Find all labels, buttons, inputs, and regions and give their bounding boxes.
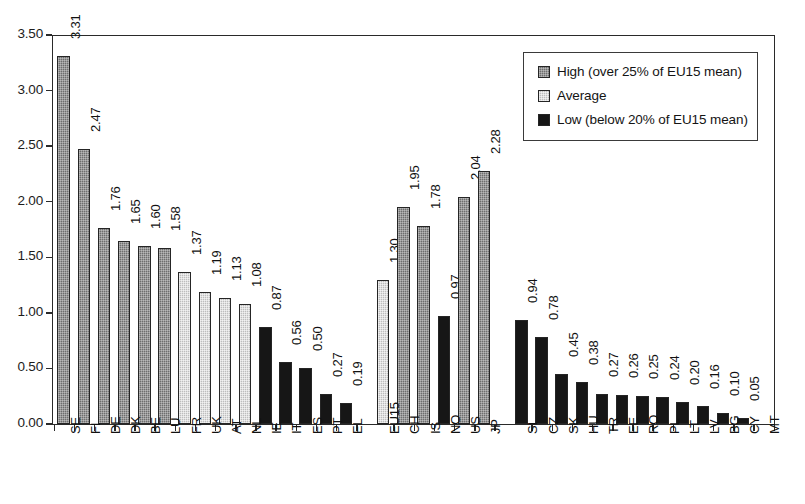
x-label-slot: PL — [656, 434, 669, 504]
x-label-slot: CY — [737, 434, 750, 504]
bar[interactable] — [279, 362, 292, 424]
x-label-slot: IT — [279, 434, 292, 504]
bar[interactable] — [78, 149, 91, 424]
x-label-slot: SI — [515, 434, 528, 504]
y-tick-label: 2.00 — [18, 193, 43, 208]
bar-slot: 1.65 — [118, 35, 131, 424]
x-label-slot: HU — [576, 434, 589, 504]
x-label-slot: DE — [98, 434, 111, 504]
bar[interactable] — [478, 171, 491, 424]
x-tick-label: ES — [311, 417, 324, 434]
bar[interactable] — [438, 316, 451, 424]
bar-slot: 1.30 — [377, 35, 390, 424]
x-label-slot: ES — [299, 434, 312, 504]
bar[interactable] — [118, 241, 131, 424]
bar[interactable] — [535, 337, 548, 424]
x-label-slot: JP — [478, 434, 491, 504]
bar[interactable] — [219, 298, 232, 424]
bar[interactable] — [178, 272, 191, 424]
x-tick-label: BE — [149, 417, 162, 434]
x-tick-label: FR — [190, 417, 203, 434]
y-tick-label: 1.00 — [18, 304, 43, 319]
bar[interactable] — [239, 304, 252, 424]
x-label-slot: DK — [118, 434, 131, 504]
x-axis: SEFIDEDKBELUFRUKATNLIEITESPTELEU15CHISNO… — [54, 425, 774, 504]
x-tick-label: IT — [290, 423, 303, 434]
bar-slot: 2.04 — [458, 35, 471, 424]
bar-slot: 2.28 — [478, 35, 491, 424]
bar-slot: 1.19 — [199, 35, 212, 424]
legend-item-high[interactable]: High (over 25% of EU15 mean) — [538, 64, 745, 79]
x-label-slot: NO — [438, 434, 451, 504]
x-tick-label: RO — [647, 415, 660, 434]
bar-slot: 0.27 — [320, 35, 333, 424]
bar-slot: 2.47 — [78, 35, 91, 424]
bar[interactable] — [158, 248, 171, 424]
x-label-slot: LV — [697, 434, 710, 504]
bar-slot: 0.50 — [299, 35, 312, 424]
bar-slot: 0.97 — [438, 35, 451, 424]
x-label-slot: RO — [636, 434, 649, 504]
bar[interactable] — [259, 327, 272, 424]
x-tick-label: PT — [331, 418, 344, 434]
x-tick-label: EL — [351, 418, 364, 434]
bar-slot — [757, 35, 770, 424]
bar-slot: 0.56 — [279, 35, 292, 424]
bar[interactable] — [199, 292, 212, 424]
x-tick-label: BG — [728, 416, 741, 434]
x-tick-label: SE — [69, 417, 82, 434]
x-tick-label: JP — [489, 419, 502, 434]
x-label-slot: SE — [57, 434, 70, 504]
x-tick-label: SK — [567, 417, 580, 434]
bar[interactable] — [299, 368, 312, 424]
x-tick-mark — [54, 425, 56, 431]
x-tick-label: LU — [169, 418, 182, 434]
x-label-slot: CZ — [535, 434, 548, 504]
bar[interactable] — [417, 226, 430, 424]
x-label-slot: FI — [78, 434, 91, 504]
legend-item-average[interactable]: Average — [538, 88, 745, 103]
x-label-slot: IE — [259, 434, 272, 504]
bar-slot: 1.13 — [219, 35, 232, 424]
chart-legend: High (over 25% of EU15 mean)AverageLow (… — [523, 52, 758, 141]
bar-slot: 0.19 — [340, 35, 353, 424]
bar-slot: 1.95 — [397, 35, 410, 424]
y-tick-label: 0.00 — [18, 415, 43, 430]
x-label-slot: EE — [616, 434, 629, 504]
bar-value-label: 2.28 — [489, 129, 502, 154]
bar-slot: 1.76 — [98, 35, 111, 424]
bar-slot: 1.58 — [158, 35, 171, 424]
x-tick-label: NO — [449, 415, 462, 434]
legend-swatch-high-icon — [538, 66, 550, 78]
x-label-slot: EL — [340, 434, 353, 504]
bar-slot: 1.78 — [417, 35, 430, 424]
y-tick-label: 1.50 — [18, 248, 43, 263]
x-tick-label: UK — [210, 416, 223, 434]
legend-swatch-average-icon — [538, 90, 550, 102]
legend-swatch-low-icon — [538, 114, 550, 126]
x-tick-label: LT — [688, 420, 701, 434]
x-label-slot: TR — [596, 434, 609, 504]
x-tick-label: NL — [250, 418, 263, 434]
x-tick-label: CH — [408, 416, 421, 434]
bar[interactable] — [98, 228, 111, 424]
bar[interactable] — [458, 197, 471, 424]
bar[interactable] — [397, 207, 410, 424]
x-tick-label: AT — [230, 419, 243, 434]
bar[interactable] — [138, 246, 151, 424]
bar[interactable] — [515, 320, 528, 424]
legend-item-low[interactable]: Low (below 20% of EU15 mean) — [538, 112, 745, 127]
y-tick-label: 3.00 — [18, 82, 43, 97]
bar-slot: 3.31 — [57, 35, 70, 424]
x-tick-label: IS — [429, 422, 442, 434]
x-label-slot: NL — [239, 434, 252, 504]
y-tick-label: 2.50 — [18, 137, 43, 152]
x-label-slot: BE — [138, 434, 151, 504]
x-tick-label: FI — [89, 423, 102, 434]
bar[interactable] — [57, 56, 70, 424]
x-tick-label: EE — [627, 417, 640, 434]
x-label-slot: FR — [178, 434, 191, 504]
bar-slot: 0.87 — [259, 35, 272, 424]
chart-screenshot: 0.000.501.001.502.002.503.003.50 3.312.4… — [0, 0, 805, 504]
x-tick-label: EU15 — [388, 402, 401, 434]
